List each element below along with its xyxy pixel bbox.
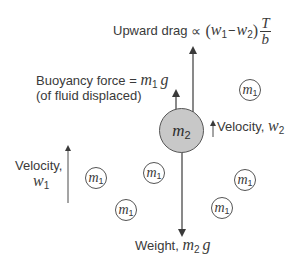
buoyancy-label-line1: Buoyancy force = m1g — [36, 73, 169, 89]
large-particle-m2: m2 — [159, 108, 204, 153]
drag-fraction: T b — [260, 17, 270, 46]
small-particle-m1: m1 — [115, 199, 137, 221]
velocity-w2-symbol: w2 — [268, 117, 284, 134]
small-particle-m1: m1 — [234, 169, 256, 191]
drag-minus: − — [228, 24, 236, 38]
buoyancy-mass: m1 — [140, 71, 157, 88]
fraction-denominator: b — [260, 32, 270, 46]
small-particle-m1: m1 — [143, 162, 165, 184]
velocity-w1-symbol: w1 — [33, 174, 49, 190]
small-particle-m1: m1 — [85, 167, 107, 189]
drag-label: Upward drag ∝ ( w1 − w2 ) T b — [113, 17, 271, 45]
weight-label: Weight, m2g — [135, 238, 211, 254]
weight-g: g — [203, 236, 211, 253]
velocity-w1-label: Velocity, — [15, 159, 62, 173]
fraction-numerator: T — [260, 17, 270, 32]
buoyancy-label-line2: (of fluid displaced) — [36, 89, 142, 103]
proportional-symbol: ∝ — [191, 24, 201, 38]
drag-w2: w2 — [237, 23, 253, 39]
weight-mass: m2 — [182, 236, 199, 253]
sedimentation-force-diagram: Upward drag ∝ ( w1 − w2 ) T b Buoyancy f… — [0, 0, 297, 261]
drag-w1: w1 — [211, 23, 227, 39]
buoyancy-g: g — [161, 71, 169, 88]
small-particle-m1: m1 — [239, 79, 261, 101]
small-particle-m1: m1 — [211, 197, 233, 219]
velocity-w2-label: Velocity, w2 — [217, 119, 284, 135]
drag-close-paren: ) — [253, 24, 258, 38]
drag-label-text: Upward drag — [113, 24, 187, 38]
